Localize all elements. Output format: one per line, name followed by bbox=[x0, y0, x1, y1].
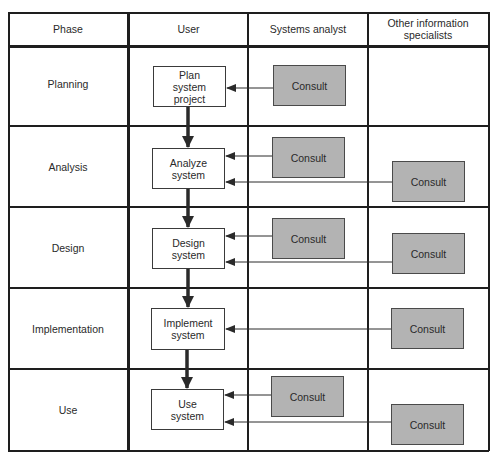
other-consult-use: Consult bbox=[391, 404, 464, 445]
task-analyze-system: Analyze system bbox=[152, 148, 225, 189]
table-border-right bbox=[488, 12, 490, 451]
phase-label-planning: Planning bbox=[9, 48, 127, 120]
analyst-consult-design: Consult bbox=[272, 218, 345, 259]
other-consult-implementation: Consult bbox=[391, 308, 464, 349]
phase-label-design: Design bbox=[9, 208, 127, 287]
table-border-bottom bbox=[8, 450, 489, 452]
header-phase: Phase bbox=[9, 13, 127, 45]
header-systems-analyst: Systems analyst bbox=[249, 13, 367, 45]
header-user: User bbox=[130, 13, 247, 45]
column-divider-analyst-other bbox=[367, 12, 369, 451]
analyst-consult-planning: Consult bbox=[273, 65, 346, 106]
task-implement-system: Implement system bbox=[151, 308, 225, 350]
column-divider-user-analyst bbox=[247, 12, 249, 451]
column-divider-phase-user bbox=[127, 12, 130, 451]
task-plan-system-project: Plan system project bbox=[153, 66, 226, 107]
task-use-system: Use system bbox=[151, 389, 224, 430]
other-consult-design: Consult bbox=[392, 233, 465, 274]
header-other-specialists: Other information specialists bbox=[378, 13, 478, 45]
other-consult-analysis: Consult bbox=[392, 161, 465, 202]
analyst-consult-use: Consult bbox=[271, 376, 344, 417]
task-design-system: Design system bbox=[152, 228, 225, 269]
phase-label-analysis: Analysis bbox=[9, 127, 127, 206]
analyst-consult-analysis: Consult bbox=[272, 137, 345, 178]
phase-label-implementation: Implementation bbox=[9, 289, 127, 368]
phase-label-use: Use bbox=[9, 370, 127, 450]
